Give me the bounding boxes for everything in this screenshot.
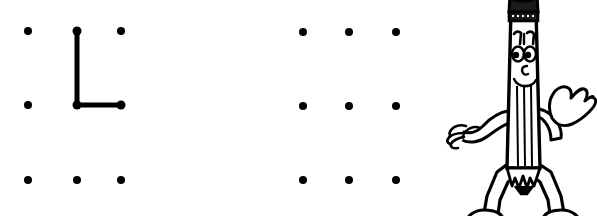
grid-dot[interactable] [73, 27, 82, 36]
grid-dot[interactable] [117, 101, 126, 110]
grid-dot[interactable] [24, 176, 32, 184]
ferrule-band [509, 12, 538, 21]
grid-dot[interactable] [299, 28, 307, 36]
grid-dot[interactable] [345, 102, 353, 110]
grid-dot[interactable] [299, 176, 307, 184]
grid-dot[interactable] [117, 176, 125, 184]
grid-dot[interactable] [24, 101, 32, 109]
grid-dot[interactable] [73, 176, 81, 184]
left-pupil [513, 52, 519, 58]
grid-dot[interactable] [299, 102, 307, 110]
right-pupil [525, 52, 531, 58]
grid-dot[interactable] [117, 27, 125, 35]
wood-grain-line [517, 86, 518, 166]
wood-grain-line [524, 86, 525, 166]
eraser-cap [510, 0, 536, 1]
eraser-top [509, 0, 538, 12]
grid-dot[interactable] [345, 28, 353, 36]
wood-grain-line [531, 86, 532, 166]
grid-dot[interactable] [345, 176, 353, 184]
grid-dot[interactable] [392, 28, 400, 36]
grid-dot[interactable] [24, 27, 32, 35]
grid-dot[interactable] [392, 176, 400, 184]
worksheet-canvas [0, 0, 597, 216]
worksheet-page [0, 0, 597, 216]
grid-dot[interactable] [73, 101, 82, 110]
grid-dot[interactable] [392, 102, 400, 110]
